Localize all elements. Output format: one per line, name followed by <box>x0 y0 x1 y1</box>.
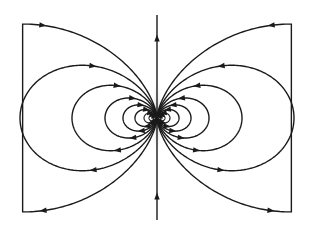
arrow-icon <box>89 167 96 172</box>
arrow-icon <box>169 102 177 107</box>
arrow-icon <box>267 22 275 27</box>
arrow-icon <box>178 95 186 100</box>
arrow-icon <box>129 95 137 100</box>
arrow-icon <box>113 83 121 88</box>
field-line <box>157 65 294 170</box>
arrow-icon <box>154 192 159 199</box>
field-lines-canvas <box>0 0 313 233</box>
arrow-icon <box>137 102 145 107</box>
arrow-icon <box>267 208 274 213</box>
arrow-icon <box>39 22 47 27</box>
arrow-icon <box>89 63 97 68</box>
field-line <box>23 24 157 212</box>
arrow-icon <box>39 208 46 213</box>
field-line <box>20 65 157 170</box>
arrow-icon <box>193 83 201 88</box>
arrow-icon <box>217 63 225 68</box>
arrow-icon <box>154 34 159 41</box>
arrow-icon <box>217 167 224 172</box>
field-line <box>157 24 291 212</box>
